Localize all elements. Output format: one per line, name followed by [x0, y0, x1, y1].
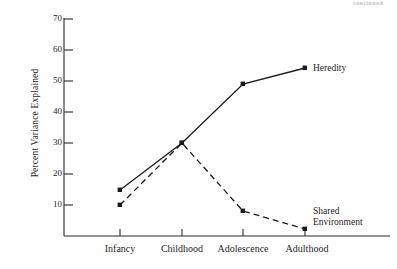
y-axis-ticks: [64, 19, 73, 205]
x-tick-label-childhood: Childhood: [161, 243, 203, 254]
series-label-shared-environment: Shared Environment: [313, 206, 363, 228]
x-tick-label-adolescence: Adolescence: [217, 243, 268, 254]
series-label-shared-line2: Environment: [313, 217, 363, 228]
series-markers-shared-environment: [118, 141, 307, 231]
x-tick-label-infancy: Infancy: [105, 243, 136, 254]
series-markers-heredity: [118, 66, 307, 192]
series-line-shared-environment: [120, 143, 305, 229]
series-line-heredity: [120, 68, 305, 190]
x-tick-label-adulthood: Adulthood: [286, 243, 329, 254]
figure-chart: continued Percent Variance Explained 70 …: [0, 0, 397, 269]
plot-area: [0, 0, 397, 269]
x-axis-ticks: [120, 229, 305, 236]
series-label-shared-line1: Shared: [313, 206, 363, 217]
series-label-heredity: Heredity: [313, 63, 346, 74]
